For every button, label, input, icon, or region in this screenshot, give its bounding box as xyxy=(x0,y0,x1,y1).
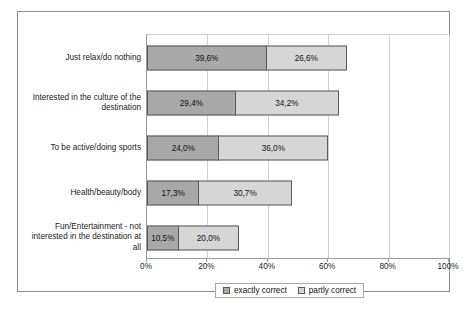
category-label: Interested in the culture of the destina… xyxy=(23,92,147,113)
category-label: Just relax/do nothing xyxy=(23,52,147,63)
stacked-bar[interactable]: 17,3%30,7% xyxy=(147,180,292,205)
stacked-bar[interactable]: 24,0%36,0% xyxy=(147,135,328,160)
bar-segment-exactly-correct[interactable]: 10,5% xyxy=(147,225,179,250)
category-row: Interested in the culture of the destina… xyxy=(147,80,448,125)
x-tick-label: 40% xyxy=(259,262,275,271)
category-label: Health/beauty/body xyxy=(23,187,147,198)
x-tick-label: 80% xyxy=(379,262,395,271)
bar-segment-partly-correct[interactable]: 36,0% xyxy=(218,135,328,160)
category-row: To be active/doing sports24,0%36,0% xyxy=(147,125,448,170)
legend-swatch-icon xyxy=(298,287,305,294)
plot-area: Just relax/do nothing39,6%26,6%Intereste… xyxy=(146,34,448,259)
bar-segment-exactly-correct[interactable]: 29,4% xyxy=(147,90,236,115)
category-row: Health/beauty/body17,3%30,7% xyxy=(147,170,448,215)
stacked-bar[interactable]: 29,4%34,2% xyxy=(147,90,339,115)
bar-segment-exactly-correct[interactable]: 39,6% xyxy=(147,45,267,70)
x-tick-label: 0% xyxy=(140,262,152,271)
x-tick-label: 100% xyxy=(438,262,459,271)
x-tick-label: 60% xyxy=(319,262,335,271)
chart-legend: exactly correctpartly correct xyxy=(215,283,364,298)
chart-frame: Just relax/do nothing39,6%26,6%Intereste… xyxy=(17,11,450,292)
bar-segment-exactly-correct[interactable]: 17,3% xyxy=(147,180,199,205)
bar-segment-partly-correct[interactable]: 34,2% xyxy=(235,90,339,115)
legend-label: exactly correct xyxy=(234,286,287,295)
legend-label: partly correct xyxy=(309,286,356,295)
gridline-100 xyxy=(449,35,450,258)
stacked-bar[interactable]: 10,5%20,0% xyxy=(147,225,239,250)
category-label: Fun/Entertainment - not interested in th… xyxy=(23,222,147,254)
bar-segment-partly-correct[interactable]: 26,6% xyxy=(266,45,347,70)
x-tick-label: 20% xyxy=(198,262,214,271)
figure-caption xyxy=(20,298,270,308)
legend-swatch-icon xyxy=(223,287,230,294)
legend-item[interactable]: partly correct xyxy=(298,286,356,295)
category-row: Fun/Entertainment - not interested in th… xyxy=(147,215,448,260)
bar-segment-partly-correct[interactable]: 30,7% xyxy=(198,180,292,205)
stacked-bar[interactable]: 39,6%26,6% xyxy=(147,45,347,70)
category-row: Just relax/do nothing39,6%26,6% xyxy=(147,35,448,80)
bar-segment-exactly-correct[interactable]: 24,0% xyxy=(147,135,219,160)
bar-segment-partly-correct[interactable]: 20,0% xyxy=(178,225,239,250)
x-axis: 0%20%40%60%80%100% xyxy=(146,262,448,276)
category-label: To be active/doing sports xyxy=(23,142,147,153)
legend-item[interactable]: exactly correct xyxy=(223,286,287,295)
